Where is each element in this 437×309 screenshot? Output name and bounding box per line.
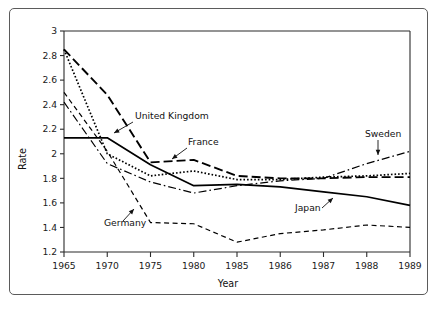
y-tick-label: 2 bbox=[51, 148, 57, 159]
x-tick-label: 1985 bbox=[225, 260, 249, 271]
x-tick-label: 1988 bbox=[355, 260, 379, 271]
series-line-united-kingdom bbox=[64, 49, 410, 179]
annotation-france: France bbox=[172, 136, 219, 159]
y-tick-label: 1.8 bbox=[42, 173, 57, 184]
y-tick-label: 2.4 bbox=[42, 99, 57, 110]
annotation-japan: Japan bbox=[294, 198, 333, 213]
x-axis: 196519701975198019851986198719881989 bbox=[52, 31, 422, 271]
x-tick-label: 1975 bbox=[139, 260, 163, 271]
line-chart-svg: 1.21.41.61.822.22.42.62.83 1965197019751… bbox=[10, 9, 429, 296]
annotation-label: Germany bbox=[104, 217, 147, 228]
annotation-label: Japan bbox=[294, 202, 321, 213]
y-tick-label: 1.2 bbox=[42, 246, 57, 257]
annotation-label: Sweden bbox=[365, 128, 401, 139]
y-axis-title: Rate bbox=[17, 148, 28, 170]
series-lines bbox=[64, 49, 410, 242]
x-tick-label: 1980 bbox=[182, 260, 206, 271]
y-tick-label: 1.4 bbox=[42, 222, 57, 233]
y-tick-label: 3 bbox=[51, 25, 57, 36]
chart-plot-area: 1.21.41.61.822.22.42.62.83 1965197019751… bbox=[10, 9, 429, 296]
annotation-label: United Kingdom bbox=[135, 110, 209, 121]
y-axis: 1.21.41.61.822.22.42.62.83 bbox=[42, 25, 64, 257]
x-tick-label: 1989 bbox=[398, 260, 422, 271]
x-tick-label: 1987 bbox=[312, 260, 336, 271]
x-tick-label: 1986 bbox=[269, 260, 293, 271]
annotation-label: France bbox=[188, 136, 219, 147]
x-axis-title: Year bbox=[217, 278, 238, 289]
chart-figure-frame: 1.21.41.61.822.22.42.62.83 1965197019751… bbox=[9, 8, 428, 295]
y-tick-label: 2.6 bbox=[42, 74, 57, 85]
x-tick-label: 1965 bbox=[52, 260, 76, 271]
series-line-japan bbox=[64, 138, 410, 206]
series-annotations: United KingdomFranceSwedenJapanGermany bbox=[104, 110, 401, 228]
y-tick-label: 2.8 bbox=[42, 50, 57, 61]
annotation-united-kingdom: United Kingdom bbox=[114, 110, 209, 133]
x-tick-label: 1970 bbox=[96, 260, 120, 271]
annotation-germany: Germany bbox=[104, 209, 147, 228]
y-tick-label: 1.6 bbox=[42, 197, 57, 208]
annotation-sweden: Sweden bbox=[365, 128, 401, 155]
y-tick-label: 2.2 bbox=[42, 123, 57, 134]
